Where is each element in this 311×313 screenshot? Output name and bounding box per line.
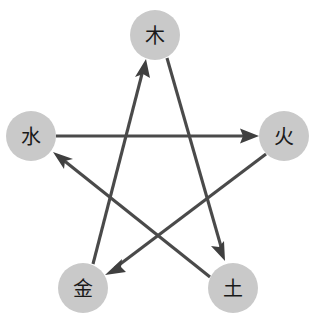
node-group: 木 火 土 金 水 (6, 10, 309, 313)
edge-water-to-fire (56, 129, 259, 144)
node-fire[interactable]: 火 (259, 111, 309, 161)
edge-line-fire-to-metal (115, 154, 266, 268)
wuxing-diagram-canvas: 木 火 土 金 水 (0, 0, 311, 313)
node-water[interactable]: 水 (6, 111, 56, 161)
wuxing-diagram: 木 火 土 金 水 (0, 0, 311, 313)
node-label-fire: 火 (274, 125, 294, 149)
edge-metal-to-wood (93, 59, 150, 264)
edge-line-metal-to-wood (93, 70, 143, 264)
node-wood[interactable]: 木 (130, 10, 180, 60)
arrowhead-into-earth (211, 241, 225, 261)
node-label-water: 水 (21, 125, 41, 149)
edge-line-earth-to-water (62, 159, 210, 277)
edge-group (53, 58, 266, 277)
edge-wood-to-earth (167, 58, 225, 261)
node-label-earth: 土 (223, 277, 243, 301)
node-metal[interactable]: 金 (58, 263, 108, 313)
node-label-metal: 金 (73, 277, 93, 301)
node-earth[interactable]: 土 (208, 263, 258, 313)
node-label-wood: 木 (145, 24, 165, 48)
